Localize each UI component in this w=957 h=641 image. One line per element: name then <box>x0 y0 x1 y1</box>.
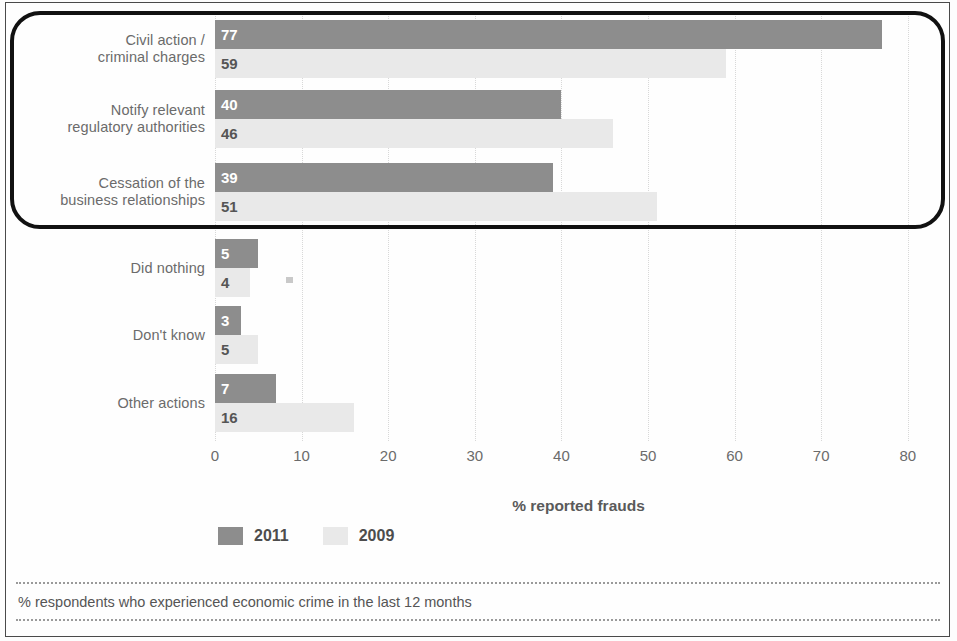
bar-value-2011-0: 77 <box>221 20 238 49</box>
bar-value-2009-2: 51 <box>221 192 238 221</box>
category-label-line: Notify relevant <box>20 102 205 119</box>
bar-value-2011-1: 40 <box>221 90 238 119</box>
footer-note: % respondents who experienced economic c… <box>16 582 940 623</box>
gridline-10 <box>302 16 304 441</box>
bar-2009-1 <box>215 119 613 148</box>
legend-swatch-2011 <box>218 527 243 545</box>
category-label-4: Don't know <box>20 327 205 344</box>
category-label-3: Did nothing <box>20 260 205 277</box>
category-label-line: Civil action / <box>20 32 205 49</box>
bar-value-2009-5: 16 <box>221 403 238 432</box>
category-label-line: criminal charges <box>20 49 205 66</box>
category-label-line: Cessation of the <box>20 175 205 192</box>
x-tick-50: 50 <box>628 447 668 464</box>
legend-label-2011: 2011 <box>254 527 289 545</box>
scan-artifact <box>286 277 293 283</box>
x-tick-30: 30 <box>455 447 495 464</box>
chart-page: 7740395375946514516 Civil action /crimin… <box>0 0 957 641</box>
x-tick-20: 20 <box>368 447 408 464</box>
category-label-line: regulatory authorities <box>20 119 205 136</box>
footer-rule-bottom <box>16 619 940 623</box>
x-tick-70: 70 <box>801 447 841 464</box>
bar-value-2009-0: 59 <box>221 49 238 78</box>
gridline-30 <box>475 16 477 441</box>
category-label-line: business relationships <box>20 192 205 209</box>
x-tick-10: 10 <box>282 447 322 464</box>
category-label-1: Notify relevantregulatory authorities <box>20 102 205 136</box>
category-label-line: Don't know <box>20 327 205 344</box>
category-label-0: Civil action /criminal charges <box>20 32 205 66</box>
gridline-50 <box>648 16 650 441</box>
x-axis-title: % reported frauds <box>0 497 957 515</box>
bar-2011-0 <box>215 20 882 49</box>
legend-label-2009: 2009 <box>359 527 395 545</box>
x-tick-40: 40 <box>541 447 581 464</box>
bar-2009-2 <box>215 192 657 221</box>
footer-note-text: % respondents who experienced economic c… <box>16 586 940 619</box>
legend-item-2011[interactable]: 2011 <box>218 527 289 545</box>
bar-2011-2 <box>215 163 553 192</box>
x-tick-60: 60 <box>715 447 755 464</box>
bar-value-2009-1: 46 <box>221 119 238 148</box>
category-label-5: Other actions <box>20 395 205 412</box>
gridline-80 <box>908 16 910 441</box>
bar-value-2011-3: 5 <box>221 239 229 268</box>
bar-value-2011-4: 3 <box>221 306 229 335</box>
category-label-line: Did nothing <box>20 260 205 277</box>
bar-value-2011-2: 39 <box>221 163 238 192</box>
plot-area: 7740395375946514516 Civil action /crimin… <box>0 0 957 641</box>
legend-item-2009[interactable]: 2009 <box>323 527 395 545</box>
gridline-20 <box>388 16 390 441</box>
legend: 20112009 <box>218 527 394 545</box>
category-label-2: Cessation of thebusiness relationships <box>20 175 205 209</box>
bar-2011-1 <box>215 90 561 119</box>
gridline-60 <box>735 16 737 441</box>
bar-value-2009-4: 5 <box>221 335 229 364</box>
bar-value-2011-5: 7 <box>221 374 229 403</box>
bar-2009-0 <box>215 49 726 78</box>
bar-value-2009-3: 4 <box>221 268 229 297</box>
x-tick-0: 0 <box>195 447 235 464</box>
gridline-70 <box>821 16 823 441</box>
category-label-line: Other actions <box>20 395 205 412</box>
x-tick-80: 80 <box>888 447 928 464</box>
gridline-40 <box>561 16 563 441</box>
legend-swatch-2009 <box>323 527 348 545</box>
